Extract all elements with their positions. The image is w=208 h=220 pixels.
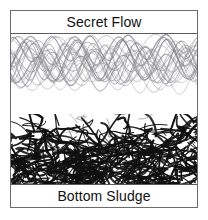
top-label-band: Secret Flow — [11, 11, 197, 34]
bottom-label-text: Bottom Sludge — [57, 189, 150, 203]
page-title: Secret Flow — [66, 15, 141, 29]
bottom-sludge-panel — [11, 114, 197, 184]
secret-flow-graphic — [11, 34, 197, 114]
bottom-sludge-graphic — [11, 114, 197, 184]
secret-flow-panel — [11, 34, 197, 114]
bottom-label-band: Bottom Sludge — [11, 184, 197, 207]
figure-frame: Secret Flow Bottom Sludge — [10, 10, 198, 208]
